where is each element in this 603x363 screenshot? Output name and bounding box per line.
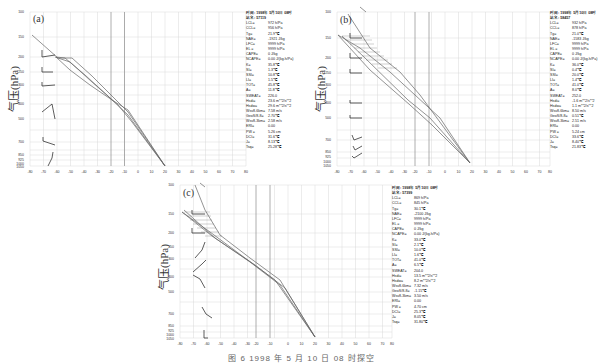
sounding-panel-b: -80-70 -60-50 -40-30 -20-10 010 2030 405… bbox=[300, 0, 603, 180]
svg-text:-50: -50 bbox=[375, 170, 380, 174]
svg-text:-80: -80 bbox=[334, 170, 339, 174]
sounding-panel-c: -80-70 -60-50 -40-30 -20-10 010 2030 405… bbox=[150, 180, 450, 350]
param-row: Tsq=25.28℃ bbox=[246, 145, 302, 150]
svg-text:30: 30 bbox=[327, 342, 331, 346]
svg-text:-40: -40 bbox=[388, 170, 393, 174]
y-axis-label-c: 气压(hPa) bbox=[155, 244, 171, 290]
sounding-panel-a: -80-70 -60-50 -40-30 -20-10 010 2030 405… bbox=[0, 0, 300, 180]
svg-text:850: 850 bbox=[325, 150, 331, 154]
isotherm-markers bbox=[415, 12, 429, 166]
svg-text:200: 200 bbox=[168, 231, 174, 235]
svg-text:500: 500 bbox=[168, 290, 174, 294]
svg-text:-60: -60 bbox=[204, 342, 209, 346]
param-row: Tsq=31.80℃ bbox=[392, 320, 452, 325]
param-row: Tsq=21.83℃ bbox=[550, 145, 603, 150]
svg-text:40: 40 bbox=[340, 342, 344, 346]
svg-text:70: 70 bbox=[538, 170, 542, 174]
temperature-curves bbox=[32, 35, 165, 166]
svg-text:80: 80 bbox=[244, 170, 248, 174]
svg-text:-70: -70 bbox=[191, 342, 196, 346]
svg-text:60: 60 bbox=[367, 342, 371, 346]
svg-text:100: 100 bbox=[325, 10, 331, 14]
svg-text:-80: -80 bbox=[177, 342, 182, 346]
parameter-table-a: 时间: 1998年 5月10日 08时 站名: 57119 LCL=972 h/… bbox=[246, 11, 302, 150]
svg-text:0: 0 bbox=[287, 342, 289, 346]
svg-text:-10: -10 bbox=[426, 170, 431, 174]
figure-caption: 图 6 1998 年 5 月 10 日 08 时探空 bbox=[0, 352, 603, 363]
svg-text:700: 700 bbox=[325, 138, 331, 142]
svg-text:150: 150 bbox=[168, 212, 174, 216]
y-axis-label-b: 气压(hPa) bbox=[312, 66, 328, 112]
svg-text:100: 100 bbox=[18, 10, 24, 14]
svg-text:-30: -30 bbox=[95, 170, 100, 174]
svg-text:60: 60 bbox=[217, 170, 221, 174]
svg-text:20: 20 bbox=[470, 170, 474, 174]
grid bbox=[180, 185, 392, 338]
svg-text:1050: 1050 bbox=[166, 337, 174, 341]
panel-label-b: (b) bbox=[340, 14, 352, 25]
svg-text:30: 30 bbox=[177, 170, 181, 174]
svg-text:50: 50 bbox=[204, 170, 208, 174]
svg-text:-10: -10 bbox=[267, 342, 272, 346]
svg-text:40: 40 bbox=[190, 170, 194, 174]
svg-text:200: 200 bbox=[325, 56, 331, 60]
svg-text:850: 850 bbox=[18, 153, 24, 157]
svg-text:20: 20 bbox=[313, 342, 317, 346]
svg-text:80: 80 bbox=[548, 170, 552, 174]
x-tick-labels: -80-70 -60-50 -40-30 -20-10 010 2030 405… bbox=[27, 170, 248, 174]
svg-text:60: 60 bbox=[524, 170, 528, 174]
svg-text:1050: 1050 bbox=[323, 164, 331, 168]
svg-text:-30: -30 bbox=[245, 342, 250, 346]
svg-text:50: 50 bbox=[354, 342, 358, 346]
wind-barbs bbox=[350, 33, 362, 158]
svg-text:-70: -70 bbox=[41, 170, 46, 174]
x-tick-labels: -80-70 -60-50 -40-30 -20-10 010 2030 405… bbox=[177, 342, 394, 346]
svg-text:1050: 1050 bbox=[16, 165, 24, 169]
x-tick-labels: -80-70 -60-50 -40-30 -20-10 010 2030 405… bbox=[334, 170, 552, 174]
grid bbox=[337, 12, 550, 166]
svg-text:80: 80 bbox=[390, 342, 394, 346]
parameter-table-b: 时间: 1998年 5月10日 08时 站名: 58457 LCL=932 h/… bbox=[550, 11, 603, 150]
svg-text:500: 500 bbox=[325, 116, 331, 120]
svg-text:500: 500 bbox=[18, 117, 24, 121]
svg-text:-50: -50 bbox=[218, 342, 223, 346]
svg-text:30: 30 bbox=[484, 170, 488, 174]
svg-text:70: 70 bbox=[231, 170, 235, 174]
isotherm-markers bbox=[256, 185, 270, 338]
svg-text:40: 40 bbox=[497, 170, 501, 174]
svg-text:200: 200 bbox=[18, 55, 24, 59]
svg-text:925: 925 bbox=[325, 155, 331, 159]
wind-barbs bbox=[42, 50, 55, 166]
svg-text:-80: -80 bbox=[27, 170, 32, 174]
svg-text:-50: -50 bbox=[68, 170, 73, 174]
grid bbox=[30, 12, 246, 166]
svg-text:70: 70 bbox=[381, 342, 385, 346]
svg-text:10: 10 bbox=[150, 170, 154, 174]
wind-barbs bbox=[192, 210, 212, 338]
svg-text:-60: -60 bbox=[54, 170, 59, 174]
svg-text:100: 100 bbox=[168, 183, 174, 187]
svg-text:-60: -60 bbox=[361, 170, 366, 174]
panel-label-c: (c) bbox=[183, 187, 194, 198]
svg-text:-70: -70 bbox=[348, 170, 353, 174]
svg-text:-20: -20 bbox=[412, 170, 417, 174]
svg-text:20: 20 bbox=[163, 170, 167, 174]
parameter-table-c: 时间: 1998年 5月10日 08时 站名: 57399 LCL=869 h/… bbox=[392, 186, 452, 325]
isotherm-markers bbox=[111, 12, 125, 166]
svg-text:700: 700 bbox=[18, 140, 24, 144]
svg-text:150: 150 bbox=[325, 36, 331, 40]
svg-text:10: 10 bbox=[457, 170, 461, 174]
svg-text:0: 0 bbox=[137, 170, 139, 174]
svg-text:-20: -20 bbox=[108, 170, 113, 174]
svg-text:-10: -10 bbox=[122, 170, 127, 174]
svg-text:150: 150 bbox=[18, 35, 24, 39]
panel-label-a: (a) bbox=[33, 13, 44, 24]
svg-text:-30: -30 bbox=[402, 170, 407, 174]
svg-text:-40: -40 bbox=[81, 170, 86, 174]
svg-text:-20: -20 bbox=[253, 342, 258, 346]
svg-text:0: 0 bbox=[444, 170, 446, 174]
y-axis-label-a: 气压(hPa) bbox=[5, 66, 21, 112]
svg-text:700: 700 bbox=[168, 312, 174, 316]
svg-text:850: 850 bbox=[168, 324, 174, 328]
svg-text:-40: -40 bbox=[231, 342, 236, 346]
